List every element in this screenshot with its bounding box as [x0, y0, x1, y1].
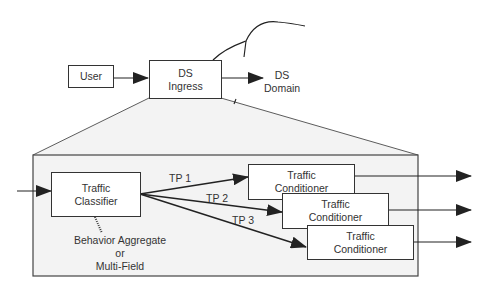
tp3-label: TP 3 [232, 214, 254, 227]
ds-ingress-box: DS Ingress [149, 60, 222, 99]
classifier-type-note: Behavior Aggregate or Multi-Field [68, 234, 172, 273]
note-line3: Multi-Field [68, 260, 172, 273]
ds-domain-label: DS Domain [264, 69, 300, 95]
conditioner-3-line2: Conditioner [334, 243, 388, 256]
tp2-label: TP 2 [206, 192, 228, 205]
note-line1: Behavior Aggregate [68, 234, 172, 247]
conditioner-2-line1: Traffic [321, 198, 350, 211]
domain-line1: DS [264, 69, 300, 82]
user-label: User [80, 70, 102, 83]
traffic-classifier-box: Traffic Classifier [51, 172, 141, 217]
domain-boundary-curve [213, 22, 305, 60]
classifier-line2: Classifier [74, 195, 117, 208]
traffic-conditioner-2: Traffic Conditioner [282, 193, 389, 229]
user-box: User [68, 65, 114, 88]
note-line2: or [68, 247, 172, 260]
conditioner-3-line1: Traffic [346, 230, 375, 243]
ingress-line1: DS [178, 67, 193, 80]
ingress-line2: Ingress [168, 80, 202, 93]
conditioner-2-line2: Conditioner [309, 211, 363, 224]
traffic-conditioner-3: Traffic Conditioner [307, 225, 414, 260]
tp1-label: TP 1 [169, 172, 191, 185]
domain-line2: Domain [264, 82, 300, 95]
classifier-line1: Traffic [82, 182, 111, 195]
conditioner-1-line1: Traffic [287, 169, 316, 182]
